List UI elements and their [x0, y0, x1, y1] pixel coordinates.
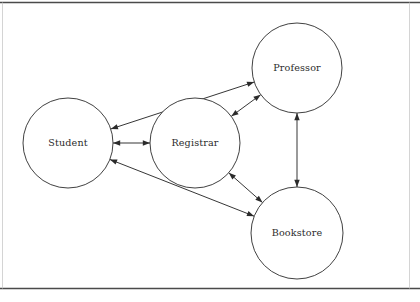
diagram-canvas: StudentRegistrarProfessorBookstore	[0, 0, 420, 302]
arrow-head-icon	[294, 180, 299, 187]
edge-registrar-professor[interactable]	[231, 95, 260, 117]
node-bookstore[interactable]: Bookstore	[251, 187, 343, 279]
arrow-head-icon	[294, 113, 299, 120]
arrow-head-icon	[246, 211, 254, 216]
arrow-head-icon	[113, 140, 120, 145]
edge-professor-bookstore[interactable]	[294, 113, 299, 187]
arrow-head-icon	[111, 124, 119, 129]
arrow-head-icon	[253, 95, 260, 101]
arrow-head-icon	[110, 159, 118, 164]
arrow-head-icon	[143, 140, 150, 145]
nodes-layer: StudentRegistrarProfessorBookstore	[23, 23, 343, 279]
node-label-student: Student	[48, 137, 88, 148]
collaboration-diagram: StudentRegistrarProfessorBookstore	[0, 0, 420, 302]
edge-student-registrar[interactable]	[113, 140, 150, 145]
node-label-professor: Professor	[273, 62, 321, 73]
node-label-registrar: Registrar	[171, 137, 218, 148]
arrow-head-icon	[247, 82, 255, 87]
node-label-bookstore: Bookstore	[272, 227, 323, 238]
node-professor[interactable]: Professor	[252, 23, 342, 113]
node-registrar[interactable]: Registrar	[150, 98, 240, 188]
node-student[interactable]: Student	[23, 98, 113, 188]
edge-registrar-bookstore[interactable]	[229, 173, 263, 203]
arrow-head-icon	[231, 110, 238, 116]
